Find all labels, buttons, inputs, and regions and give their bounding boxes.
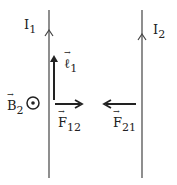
- l1-arrowhead: [50, 55, 58, 62]
- label-B2: B2: [7, 99, 24, 112]
- b2-dot: [31, 101, 35, 105]
- label-I1: I1: [24, 18, 36, 31]
- label-F12: F12: [58, 116, 81, 129]
- label-l1: ℓ1: [64, 57, 77, 70]
- label-F21: F21: [113, 116, 136, 129]
- label-I2: I2: [153, 23, 165, 36]
